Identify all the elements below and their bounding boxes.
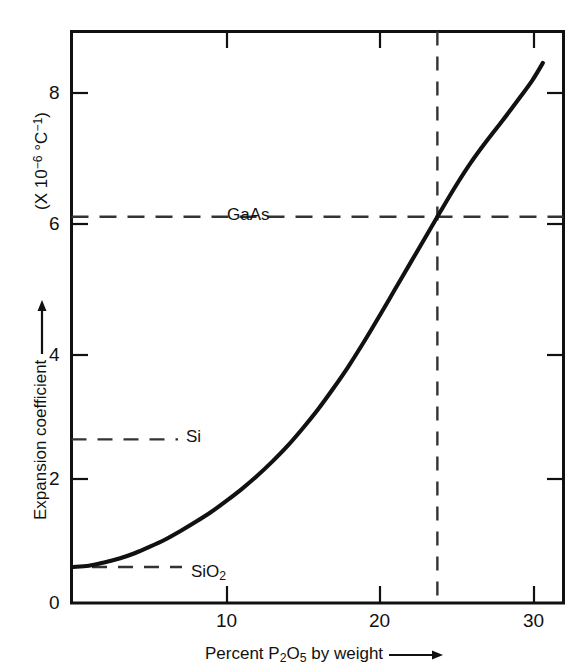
data-curve <box>74 63 543 567</box>
y-axis-arrow-icon <box>36 300 48 354</box>
x-axis-title-suffix: by weight <box>307 644 384 663</box>
reference-label-sio2-text: SiO <box>191 562 219 581</box>
y-tick-label-0: 0 <box>49 593 60 612</box>
y-tick-label-4: 4 <box>49 345 60 364</box>
plot-frame <box>72 32 564 604</box>
y-tick-label-6: 6 <box>49 214 60 233</box>
y-axis-unit: (X 10−6 °C−1) <box>32 112 50 210</box>
y-axis-unit-close: ) <box>32 112 51 118</box>
reference-label-si: Si <box>186 428 201 445</box>
x-tick-label-10: 10 <box>216 611 237 630</box>
x-axis-ticks-top <box>227 32 534 49</box>
y-tick-label-2: 2 <box>49 469 60 488</box>
y-axis-ticks-right <box>547 93 564 479</box>
y-axis-ticks <box>72 93 89 479</box>
y-axis-unit-mid: °C <box>32 132 51 156</box>
reference-label-sio2-subscript: 2 <box>219 569 226 583</box>
y-axis-unit-exponent-1: −6 <box>31 155 45 169</box>
reference-label-gaas: GaAs <box>227 206 270 223</box>
y-axis-unit-exponent-2: −1 <box>31 118 45 132</box>
x-axis-ticks-bottom <box>227 586 534 603</box>
reference-label-sio2: SiO2 <box>191 563 226 582</box>
y-axis-unit-open: (X 10 <box>32 169 51 210</box>
x-axis-arrow-icon <box>389 649 443 661</box>
y-tick-label-8: 8 <box>49 83 60 102</box>
x-axis-title-mid: O <box>286 644 299 663</box>
y-axis-title: Expansion coefficient <box>32 300 49 520</box>
x-tick-label-20: 20 <box>369 611 390 630</box>
x-axis-title-sub-5: 5 <box>300 651 307 665</box>
x-axis-title-prefix: Percent P <box>205 644 280 663</box>
y-axis-title-text: Expansion coefficient <box>31 360 50 520</box>
chart-plot-area <box>0 0 586 672</box>
x-tick-label-30: 30 <box>523 611 544 630</box>
x-axis-title: Percent P2O5 by weight <box>205 645 443 664</box>
chart-figure: 8 6 4 2 0 10 20 30 GaAs Si SiO2 Percent … <box>0 0 586 672</box>
